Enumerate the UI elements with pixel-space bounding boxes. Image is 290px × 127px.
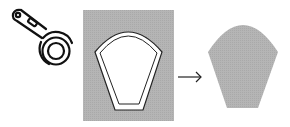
cut-fabric-piece xyxy=(208,25,278,108)
rotary-cutter-icon xyxy=(13,10,72,65)
arrow-right-icon xyxy=(178,72,201,82)
diagram-canvas xyxy=(0,0,290,127)
